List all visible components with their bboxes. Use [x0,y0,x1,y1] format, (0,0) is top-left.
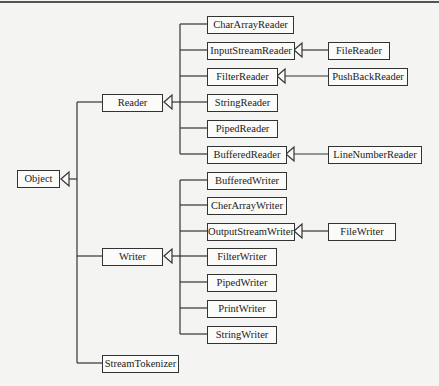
node-writer: Writer [102,248,163,266]
node-output-stream-writer: OutputStreamWriter [207,223,295,241]
node-string-reader: StringReader [207,94,278,112]
node-object: Object [17,170,60,188]
inherit-triangle-outputstreamwriter [294,224,302,238]
node-filter-writer: FilterWriter [207,248,277,266]
node-buffered-reader: BufferedReader [207,146,287,164]
node-line-number-reader: LineNumberReader [328,146,422,164]
inherit-triangle-object [61,172,69,186]
node-input-stream-reader: InputStreamReader [207,42,295,60]
node-push-back-reader: PushBackReader [328,68,408,86]
inherit-triangle-writer [164,249,172,263]
node-piped-reader: PipedReader [207,120,278,138]
inherit-triangle-reader [164,95,172,109]
node-char-array-writer: CherArrayWriter [207,197,287,215]
inherit-triangle-bufferedreader [286,147,294,161]
node-piped-writer: PipedWriter [207,274,277,292]
node-buffered-writer: BufferedWriter [207,172,287,190]
node-file-reader: FileReader [328,42,390,60]
node-print-writer: PrintWriter [207,300,277,318]
node-file-writer: FileWriter [328,223,396,241]
node-stream-tokenizer: StreamTokenizer [102,355,179,373]
node-char-array-reader: CharArrayReader [207,16,294,34]
inherit-triangle-inputstreamreader [294,43,302,57]
node-reader: Reader [102,94,163,112]
inherit-triangle-filterreader [277,69,285,83]
node-string-writer: StringWriter [207,326,277,344]
node-filter-reader: FilterReader [207,68,278,86]
